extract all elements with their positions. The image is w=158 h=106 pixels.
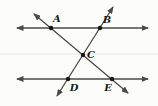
point-e-dot [110, 77, 114, 81]
point-c-label: C [87, 49, 95, 60]
geometry-diagram: A B C D E [0, 0, 158, 106]
geometry-diagram-canvas: A B C D E [0, 0, 158, 106]
point-b-dot [98, 26, 102, 30]
point-a-label: A [52, 13, 61, 24]
point-c-dot [81, 53, 85, 57]
point-a-dot [49, 26, 53, 30]
point-d-label: D [69, 82, 79, 93]
point-e-label: E [103, 82, 112, 93]
point-b-label: B [102, 14, 111, 25]
point-d-dot [66, 77, 70, 81]
